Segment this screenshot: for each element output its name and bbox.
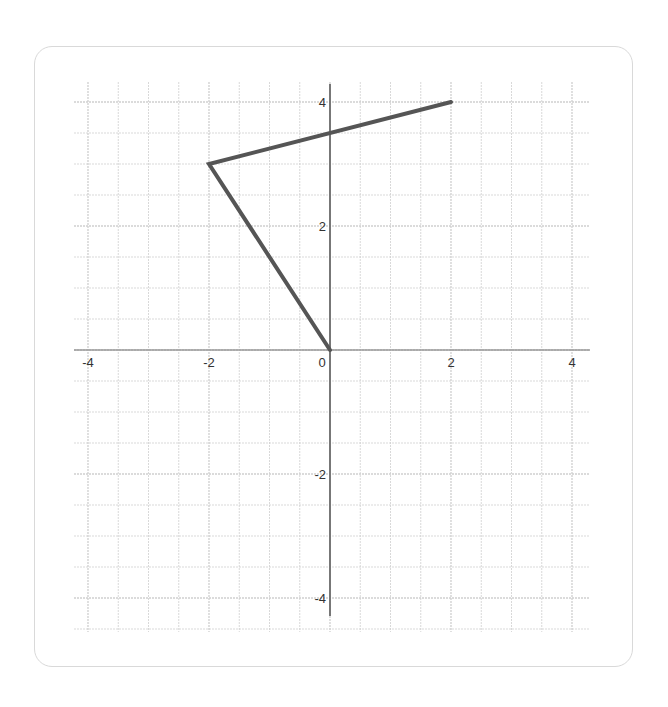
coordinate-plane: -4-202442-2-4 — [0, 0, 668, 707]
grid-lines — [74, 82, 590, 632]
y-tick-label: 2 — [319, 219, 326, 234]
y-tick-label: 4 — [319, 95, 326, 110]
x-tick-label: 4 — [568, 355, 575, 370]
y-tick-label: -2 — [314, 467, 326, 482]
x-tick-label: 2 — [447, 355, 454, 370]
x-tick-label: -4 — [82, 355, 94, 370]
x-tick-label: 0 — [318, 355, 325, 370]
y-tick-label: -4 — [314, 591, 326, 606]
x-tick-label: -2 — [203, 355, 215, 370]
